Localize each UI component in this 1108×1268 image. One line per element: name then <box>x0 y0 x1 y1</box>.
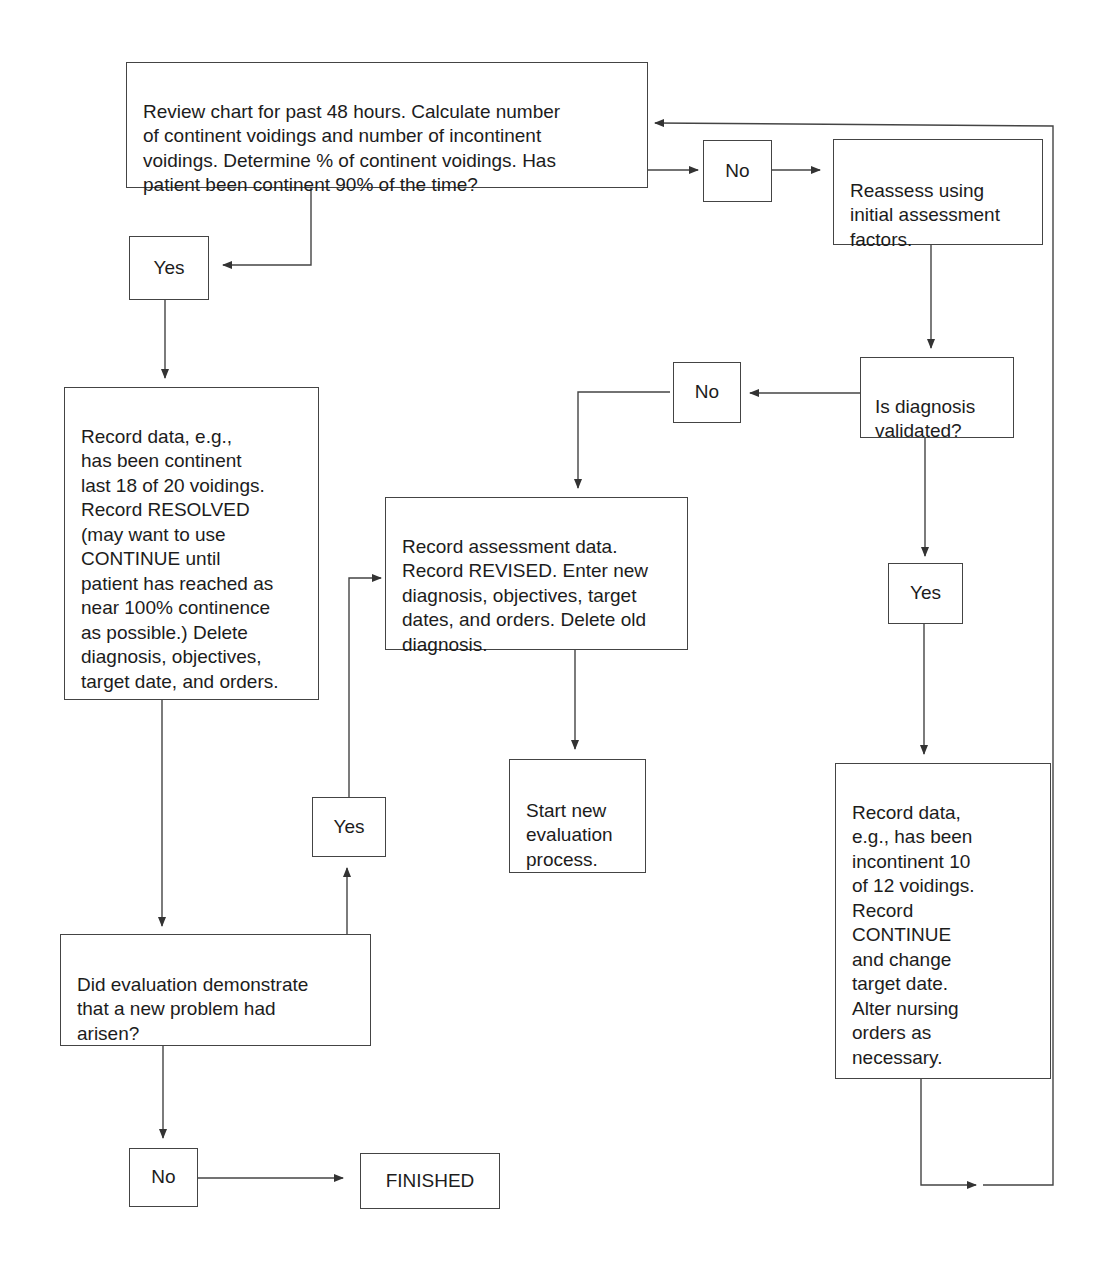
node-yes-left-text: Yes <box>154 256 185 281</box>
node-yes-mid-text: Yes <box>334 815 365 840</box>
node-record-resolved: Record data, e.g., has been continent la… <box>64 387 319 700</box>
node-finished-text: FINISHED <box>386 1169 475 1194</box>
node-start-new: Start new evaluation process. <box>509 759 646 873</box>
node-new-problem: Did evaluation demonstrate that a new pr… <box>60 934 371 1046</box>
node-no-mid: No <box>673 362 741 423</box>
node-yes-left: Yes <box>129 236 209 300</box>
node-diagnosis-validated: Is diagnosis validated? <box>860 357 1014 438</box>
node-record-continue: Record data, e.g., has been incontinent … <box>835 763 1051 1079</box>
node-record-resolved-text: Record data, e.g., has been continent la… <box>81 425 302 695</box>
node-no-bottom-text: No <box>151 1165 175 1190</box>
node-yes-mid: Yes <box>312 797 386 857</box>
edge-no-to-record-revised <box>578 392 670 488</box>
node-start-new-text: Start new evaluation process. <box>526 799 629 873</box>
edge-yes-to-record-revised <box>349 578 381 797</box>
node-reassess: Reassess using initial assessment factor… <box>833 139 1043 245</box>
flowchart-canvas: Review chart for past 48 hours. Calculat… <box>0 0 1108 1268</box>
node-no-mid-text: No <box>695 380 719 405</box>
node-no-top-text: No <box>725 159 749 184</box>
node-record-continue-text: Record data, e.g., has been incontinent … <box>852 801 1034 1071</box>
node-no-bottom: No <box>129 1148 198 1207</box>
node-record-revised: Record assessment data. Record REVISED. … <box>385 497 688 650</box>
node-diagnosis-validated-text: Is diagnosis validated? <box>875 395 999 444</box>
node-new-problem-text: Did evaluation demonstrate that a new pr… <box>77 973 354 1047</box>
node-reassess-text: Reassess using initial assessment factor… <box>850 179 1026 253</box>
node-yes-right: Yes <box>888 563 963 624</box>
node-review-chart-text: Review chart for past 48 hours. Calculat… <box>143 100 631 198</box>
node-review-chart: Review chart for past 48 hours. Calculat… <box>126 62 648 188</box>
node-finished: FINISHED <box>360 1153 500 1209</box>
edge-continue-loop-down <box>921 1079 976 1185</box>
node-yes-right-text: Yes <box>910 581 941 606</box>
node-no-top: No <box>703 140 772 202</box>
node-record-revised-text: Record assessment data. Record REVISED. … <box>402 535 671 658</box>
